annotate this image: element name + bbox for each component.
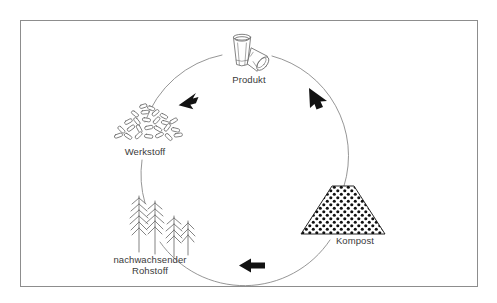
node-label-rohstoff: nachwachsender Rohstoff: [95, 254, 205, 276]
node-label-kompost: Kompost: [305, 235, 405, 246]
node-label-produkt: Produkt: [199, 74, 299, 85]
compost-heap-icon: [301, 186, 385, 234]
arrow-werkstoff-to-produkt: [179, 93, 199, 109]
wheat-icon: [130, 196, 195, 257]
node-label-rohstoff-line1: nachwachsender: [95, 254, 205, 265]
cycle-path: [141, 55, 349, 286]
figure-root: Produkt Werkstoff nachwachsender Rohstof…: [0, 0, 497, 303]
node-label-werkstoff: Werkstoff: [95, 146, 195, 157]
arrow-produkt-to-kompost: [309, 88, 327, 110]
cycle-diagram-canvas: [0, 0, 497, 303]
node-label-rohstoff-line2: Rohstoff: [95, 265, 205, 276]
granulate-pile-icon: [114, 103, 183, 141]
cups-icon: [233, 34, 271, 72]
arrow-kompost-to-rohstoff: [239, 259, 265, 273]
